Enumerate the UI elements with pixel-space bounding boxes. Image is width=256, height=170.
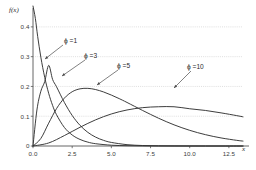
series-curve-phi-10 bbox=[33, 107, 243, 146]
series-curve-phi-3 bbox=[33, 65, 243, 146]
y-axis-title: f(x) bbox=[9, 6, 19, 14]
annotation-arrow-head-phi-5 bbox=[97, 82, 100, 85]
series-label-phi-5: ϕ =5 bbox=[117, 62, 130, 69]
y-tick-label: 0.4 bbox=[4, 23, 30, 30]
annotation-arrow-line-phi-3 bbox=[62, 60, 85, 76]
series-label-phi-3: ϕ =3 bbox=[84, 52, 97, 59]
x-axis-title: x bbox=[242, 145, 245, 153]
x-tick-label: 7.5 bbox=[138, 150, 164, 157]
chart-plot-area bbox=[0, 0, 256, 170]
series-label-phi-1: ϕ =1 bbox=[64, 37, 77, 44]
annotation-arrow-head-phi-3 bbox=[62, 73, 65, 76]
annotation-arrow-line-phi-5 bbox=[97, 70, 118, 85]
gamma-density-chart: f(x) x 00.10.20.30.4 0.02.55.07.510.012.… bbox=[0, 0, 256, 170]
y-tick-label: 0 bbox=[4, 142, 30, 149]
y-tick-label: 0.2 bbox=[4, 83, 30, 90]
y-tick-label: 0.1 bbox=[4, 113, 30, 120]
series-label-phi-10: ϕ =10 bbox=[187, 63, 204, 70]
axes-group bbox=[31, 8, 249, 148]
x-tick-label: 2.5 bbox=[59, 150, 85, 157]
y-tick-label: 0.3 bbox=[4, 53, 30, 60]
x-tick-label: 5.0 bbox=[98, 150, 124, 157]
x-tick-label: 0.0 bbox=[20, 150, 46, 157]
annotation-arrow-line-phi-10 bbox=[174, 71, 191, 88]
x-tick-label: 10.0 bbox=[177, 150, 203, 157]
x-tick-label: 12.5 bbox=[216, 150, 242, 157]
series-curve-phi-5 bbox=[33, 88, 243, 146]
